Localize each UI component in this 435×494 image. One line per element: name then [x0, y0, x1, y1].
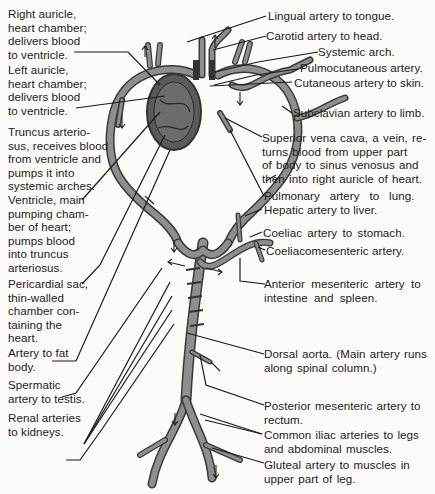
label-lingual-artery: Lingual artery to tongue.: [268, 9, 394, 23]
label-right-auricle: Right auricle, heart chamber; delivers b…: [8, 7, 87, 61]
label-spermatic-artery: Spermatic artery to testis.: [8, 378, 85, 405]
label-cutaneous-artery: Cutaneous artery to skin.: [294, 76, 424, 90]
label-truncus-arteriosus: Truncus arterio- sus, receives blood fro…: [8, 125, 108, 193]
label-superior-vena-cava: Superior vena cava, a vein, re- turns bl…: [262, 131, 426, 185]
label-artery-fat-body: Artery to fat body.: [8, 346, 69, 373]
label-coeliac-artery: Coeliac artery to stomach.: [263, 226, 405, 240]
label-hepatic-artery: Hepatic artery to liver.: [264, 203, 377, 217]
label-renal-arteries: Renal arteries to kidneys.: [8, 411, 81, 438]
label-dorsal-aorta: Dorsal aorta. (Main artery runs along sp…: [264, 347, 427, 374]
label-pulmocutaneous-artery: Pulmocutaneous artery.: [300, 61, 423, 75]
label-ventricle: Ventricle, main pumping cham- ber of hea…: [8, 193, 89, 275]
label-subclavian-artery: Subclavian artery to limb.: [293, 106, 424, 120]
label-gluteal-artery: Gluteal artery to muscles in upper part …: [264, 458, 410, 485]
label-coeliacomesenteric-artery: Coeliacomesenteric artery.: [266, 244, 404, 258]
label-common-iliac-arteries: Common iliac arteries to legs and abdomi…: [264, 428, 419, 455]
label-systemic-arch: Systemic arch.: [318, 45, 395, 59]
label-carotid-artery: Carotid artery to head.: [266, 29, 383, 43]
label-pulmonary-artery: Pulmonary artery to lung.: [264, 189, 414, 203]
label-pericardial-sac: Pericardial sac, thin-walled chamber con…: [8, 277, 88, 345]
label-left-auricle: Left auricle, heart chamber; delivers bl…: [8, 63, 87, 117]
label-posterior-mesenteric-artery: Posterior mesenteric artery to rectum.: [264, 399, 421, 426]
label-anterior-mesenteric-artery: Anterior mesenteric artery to intestine …: [264, 277, 421, 304]
